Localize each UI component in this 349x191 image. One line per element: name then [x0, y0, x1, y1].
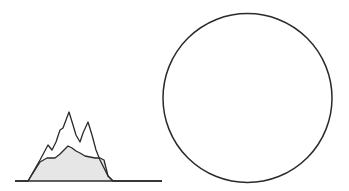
diagram-canvas [0, 0, 349, 191]
